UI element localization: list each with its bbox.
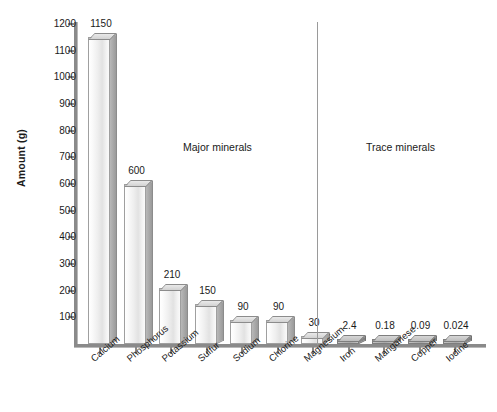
- y-tick-label: 900: [26, 99, 76, 109]
- bar-value-label: 150: [178, 286, 238, 296]
- y-tick-label-text: 100: [42, 312, 76, 322]
- y-tick-label-text: 1100: [42, 46, 76, 56]
- y-tick-label-text: 800: [42, 126, 76, 136]
- y-tick-label: 400: [26, 232, 76, 242]
- y-tick-label: 100: [26, 312, 76, 322]
- bar-value-label: 210: [142, 270, 202, 280]
- bar-value-label: 90: [249, 302, 309, 312]
- group-divider-line: [317, 22, 318, 345]
- bar-value-label: 600: [107, 166, 167, 176]
- y-tick-label-text: 300: [42, 259, 76, 269]
- group-caption-trace: Trace minerals: [366, 141, 435, 153]
- x-label-iron: Iron: [338, 345, 357, 363]
- bar-phosphorus: [124, 184, 146, 344]
- y-tick-label: 1100: [26, 46, 76, 56]
- y-tick-label: 800: [26, 126, 76, 136]
- y-tick-label: 300: [26, 259, 76, 269]
- y-tick-label-text: 900: [42, 99, 76, 109]
- y-tick-label: 500: [26, 206, 76, 216]
- y-tick-label: 600: [26, 179, 76, 189]
- y-tick-label: 200: [26, 286, 76, 296]
- bar-side-face: [110, 34, 117, 344]
- y-tick-label-text: 200: [42, 286, 76, 296]
- bar-calcium: [88, 37, 110, 344]
- mineral-amount-bar-chart: Amount (g) 12001100100090080070060050040…: [0, 0, 497, 412]
- group-caption-major: Major minerals: [183, 141, 252, 153]
- bar-front-face: [88, 37, 110, 344]
- y-tick-label-text: 1000: [42, 72, 76, 82]
- bar-value-label: 0.024: [426, 321, 486, 331]
- y-tick-label: 700: [26, 152, 76, 162]
- y-tick-label-text: 700: [42, 152, 76, 162]
- bar-value-label: 1150: [71, 19, 131, 29]
- y-tick-label-text: 400: [42, 232, 76, 242]
- bar-front-face: [124, 184, 146, 344]
- y-tick-label-text: 500: [42, 206, 76, 216]
- y-tick-label: 1000: [26, 72, 76, 82]
- bar-side-face: [146, 181, 153, 344]
- y-tick-label: 1200: [26, 19, 76, 29]
- y-tick-label-text: 600: [42, 179, 76, 189]
